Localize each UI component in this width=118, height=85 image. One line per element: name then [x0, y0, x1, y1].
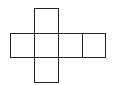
- net-square-left: [11, 34, 35, 58]
- net-square-center: [35, 34, 59, 58]
- net-square-far-right: [83, 34, 106, 58]
- net-square-right: [59, 34, 83, 58]
- cube-net-diagram: [0, 0, 118, 85]
- net-square-bottom: [35, 58, 59, 83]
- net-square-top: [35, 9, 59, 34]
